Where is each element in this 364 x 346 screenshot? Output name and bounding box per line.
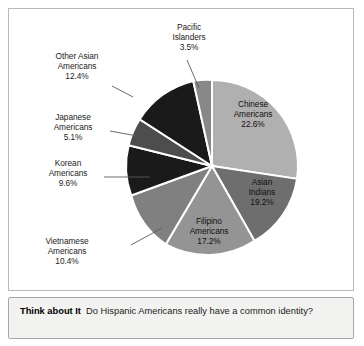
figure-page: Pacific Islanders 3.5% Other Asian Ameri… (0, 0, 364, 346)
pie-label-line2: Americans (216, 109, 290, 119)
pie-label-line1: Vietnamese (26, 236, 108, 246)
pie-chart: Pacific Islanders 3.5% Other Asian Ameri… (0, 0, 364, 292)
pie-label-line1: Korean (32, 158, 104, 168)
pie-label-chinese-americans: Chinese Americans 22.6% (216, 99, 290, 130)
caption-question: Do Hispanic Americans really have a comm… (86, 306, 313, 316)
pie-label-value: 9.6% (32, 178, 104, 188)
caption-text: Think about It Do Hispanic Americans rea… (20, 305, 343, 318)
pie-label-value: 12.4% (39, 71, 115, 81)
pie-label-filipino-americans: Filipino Americans 17.2% (172, 216, 246, 247)
pie-label-value: 19.2% (231, 197, 293, 207)
pie-label-value: 5.1% (37, 132, 109, 142)
pie-label-line1: Pacific (158, 22, 220, 32)
pie-label-line2: Americans (39, 61, 115, 71)
pie-label-line1: Filipino (172, 216, 246, 226)
pie-label-line2: Americans (37, 122, 109, 132)
pie-label-pacific-islanders: Pacific Islanders 3.5% (158, 22, 220, 53)
pie-label-value: 3.5% (158, 42, 220, 52)
pie-label-line2: Indians (231, 187, 293, 197)
pie-label-asian-indians: Asian Indians 19.2% (231, 177, 293, 208)
pie-label-line1: Chinese (216, 99, 290, 109)
pie-label-korean-americans: Korean Americans 9.6% (32, 158, 104, 189)
pie-label-value: 10.4% (26, 256, 108, 266)
pie-label-line2: Islanders (158, 32, 220, 42)
pie-label-line2: Americans (172, 226, 246, 236)
leader-line-other-asian-americans (112, 86, 133, 97)
pie-label-line2: Americans (26, 246, 108, 256)
pie-label-vietnamese-americans: Vietnamese Americans 10.4% (26, 236, 108, 267)
pie-label-line1: Asian (231, 177, 293, 187)
pie-label-value: 22.6% (216, 119, 290, 129)
pie-label-line1: Other Asian (39, 51, 115, 61)
caption-lead-label: Think about It (20, 306, 86, 316)
think-about-it-box: Think about It Do Hispanic Americans rea… (8, 297, 354, 339)
pie-label-value: 17.2% (172, 236, 246, 246)
pie-label-line1: Japanese (37, 112, 109, 122)
pie-label-other-asian-americans: Other Asian Americans 12.4% (39, 51, 115, 82)
pie-label-line2: Americans (32, 168, 104, 178)
pie-label-japanese-americans: Japanese Americans 5.1% (37, 112, 109, 143)
